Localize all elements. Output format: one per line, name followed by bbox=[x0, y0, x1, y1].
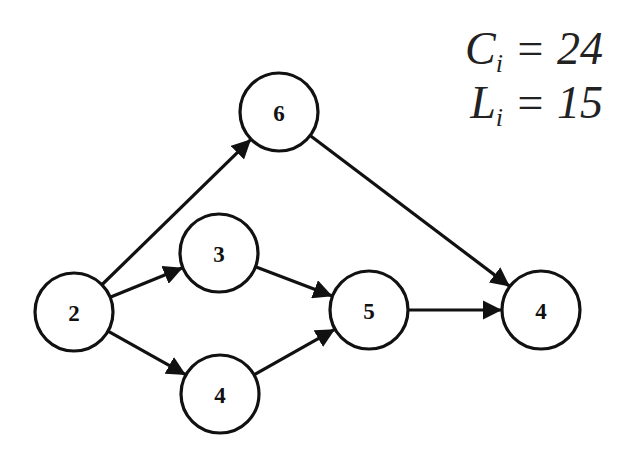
formula-c: Ci = 24 bbox=[465, 26, 603, 77]
formula-c-subscript: i bbox=[496, 49, 503, 78]
dag-diagram: 234654 Ci = 24 Li = 15 bbox=[0, 0, 625, 458]
formula-l-value: 15 bbox=[557, 77, 603, 128]
formula-c-symbol: C bbox=[465, 23, 496, 74]
edge-n6-to-n4b bbox=[310, 136, 509, 286]
node-label: 2 bbox=[68, 301, 80, 326]
node-label: 5 bbox=[363, 299, 375, 324]
formula-c-eq: = bbox=[503, 23, 557, 74]
formula-l-subscript: i bbox=[496, 103, 503, 132]
formula-l-eq: = bbox=[503, 77, 557, 128]
node-n3: 3 bbox=[180, 214, 258, 292]
edge-n2-to-n3 bbox=[110, 268, 182, 297]
formula-l: Li = 15 bbox=[470, 80, 603, 131]
node-label: 6 bbox=[273, 101, 285, 126]
edges-group bbox=[102, 136, 509, 375]
node-label: 3 bbox=[213, 242, 225, 267]
edge-n2-to-n4a bbox=[108, 331, 185, 374]
node-n4a: 4 bbox=[181, 355, 259, 433]
node-label: 4 bbox=[214, 383, 226, 408]
node-label: 4 bbox=[535, 299, 547, 324]
formula-l-symbol: L bbox=[470, 77, 496, 128]
formula-c-value: 24 bbox=[557, 23, 603, 74]
node-n6: 6 bbox=[240, 73, 318, 151]
node-n4b: 4 bbox=[502, 271, 580, 349]
edge-n3-to-n5 bbox=[255, 267, 331, 296]
node-n2: 2 bbox=[35, 273, 113, 351]
edge-n4a-to-n5 bbox=[254, 330, 334, 375]
node-n5: 5 bbox=[330, 271, 408, 349]
